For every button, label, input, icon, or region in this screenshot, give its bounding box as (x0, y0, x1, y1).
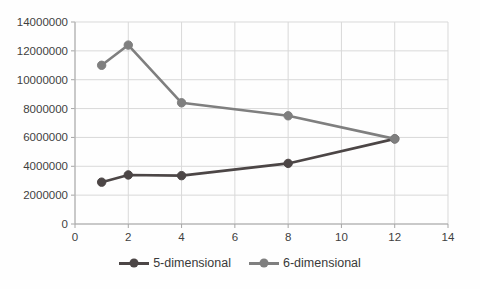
y-tick-label: 4000000 (23, 160, 68, 172)
legend-marker-6-dimensional (249, 258, 279, 269)
legend-marker-5-dimensional (119, 258, 149, 269)
data-point-5-dimensional (284, 159, 292, 167)
data-point-6-dimensional (391, 135, 399, 143)
series-line-5-dimensional (102, 139, 395, 182)
x-tick-label: 0 (72, 231, 78, 243)
data-point-6-dimensional (97, 61, 105, 69)
legend-item-6-dimensional: 6-dimensional (249, 256, 361, 270)
x-tick-label: 6 (232, 231, 238, 243)
legend-label-6-dimensional: 6-dimensional (283, 256, 361, 270)
series-line-6-dimensional (102, 45, 395, 139)
legend-dot-icon (260, 259, 269, 268)
x-tick-label: 14 (442, 231, 455, 243)
y-tick-label: 2000000 (23, 189, 68, 201)
x-tick-label: 4 (178, 231, 185, 243)
x-tick-label: 8 (285, 231, 291, 243)
data-point-6-dimensional (177, 99, 185, 107)
y-tick-label: 8000000 (23, 103, 68, 115)
y-tick-label: 10000000 (17, 74, 68, 86)
data-point-6-dimensional (284, 112, 292, 120)
legend-dot-icon (130, 259, 139, 268)
x-tick-label: 2 (125, 231, 131, 243)
y-tick-label: 0 (62, 218, 68, 230)
data-point-5-dimensional (177, 171, 185, 179)
y-tick-label: 12000000 (17, 45, 68, 57)
x-tick-label: 12 (388, 231, 401, 243)
data-point-5-dimensional (124, 171, 132, 179)
legend-label-5-dimensional: 5-dimensional (153, 256, 231, 270)
legend-item-5-dimensional: 5-dimensional (119, 256, 231, 270)
plot-area: 0200000040000006000000800000010000000120… (0, 0, 480, 256)
legend: 5-dimensional 6-dimensional (0, 256, 480, 270)
line-chart: 0200000040000006000000800000010000000120… (0, 0, 480, 289)
x-tick-label: 10 (335, 231, 348, 243)
y-tick-label: 14000000 (17, 16, 68, 28)
y-tick-label: 6000000 (23, 131, 68, 143)
data-point-5-dimensional (97, 178, 105, 186)
data-point-6-dimensional (124, 41, 132, 49)
